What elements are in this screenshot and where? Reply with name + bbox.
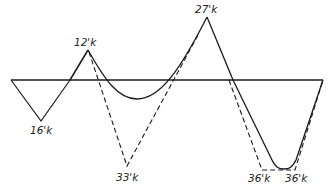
moment-diagram-svg	[0, 0, 330, 191]
label-peak-27k: 27'k	[195, 4, 217, 15]
solid-descent-from-peak-27	[207, 17, 233, 80]
label-neg-33k: 33'k	[116, 172, 138, 183]
label-neg-36k-left: 36'k	[248, 173, 270, 184]
label-neg-36k-right: 36'k	[285, 173, 307, 184]
left-negative-triangle	[11, 80, 70, 121]
solid-rise-to-peak-12	[70, 50, 88, 80]
solid-sag-curve	[88, 17, 207, 99]
label-peak-12k: 12'k	[74, 37, 96, 48]
label-neg-16k: 16'k	[30, 125, 52, 136]
dashed-right-trapezoid	[229, 80, 323, 170]
dashed-mid-triangle	[89, 35, 198, 166]
